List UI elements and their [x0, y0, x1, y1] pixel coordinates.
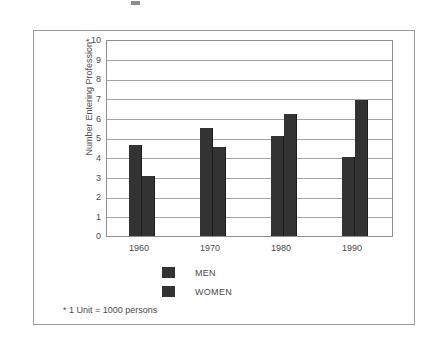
figure-frame: Number Entering Profession* 10 9 8 7 6 5…: [33, 30, 415, 325]
x-tick-label-1980: 1980: [251, 243, 311, 253]
y-tick-label: 2: [79, 193, 101, 202]
x-tick-label-1990: 1990: [322, 243, 382, 253]
y-tick-label: 1: [79, 213, 101, 222]
y-tick-label: 5: [79, 134, 101, 143]
y-tick-label: 7: [79, 95, 101, 104]
gridline: [107, 139, 392, 140]
bar-women-1970: [213, 147, 226, 236]
chart-legend: MEN WOMEN: [162, 263, 312, 301]
legend-entry-women: WOMEN: [162, 282, 312, 301]
y-tick-label: 4: [79, 154, 101, 163]
legend-swatch-men: [162, 267, 175, 278]
bar-men-1980: [271, 136, 284, 236]
plot-area: [106, 40, 393, 237]
bar-women-1960: [142, 176, 155, 236]
scan-artifact-top: [131, 1, 140, 5]
footnote: * 1 Unit = 1000 persons: [63, 305, 157, 315]
gridline: [107, 119, 392, 120]
y-tick-label: 3: [79, 174, 101, 183]
bar-women-1980: [284, 114, 297, 236]
x-tick-label-1970: 1970: [180, 243, 240, 253]
y-tick-label: 0: [79, 232, 101, 241]
bar-chart: Number Entering Profession* 10 9 8 7 6 5…: [34, 31, 416, 326]
x-tick-label-1960: 1960: [109, 243, 169, 253]
y-tick-label: 8: [79, 75, 101, 84]
legend-label-women: WOMEN: [195, 287, 232, 297]
bar-men-1960: [129, 145, 142, 236]
bar-women-1990: [355, 100, 368, 236]
legend-label-men: MEN: [195, 268, 216, 278]
bar-men-1970: [200, 128, 213, 236]
gridline: [107, 60, 392, 61]
gridline: [107, 99, 392, 100]
legend-swatch-women: [162, 286, 175, 297]
y-tick-label: 10: [79, 36, 101, 45]
bar-men-1990: [342, 157, 355, 236]
y-tick-label: 9: [79, 56, 101, 65]
y-tick-label: 6: [79, 115, 101, 124]
legend-entry-men: MEN: [162, 263, 312, 282]
gridline: [107, 80, 392, 81]
